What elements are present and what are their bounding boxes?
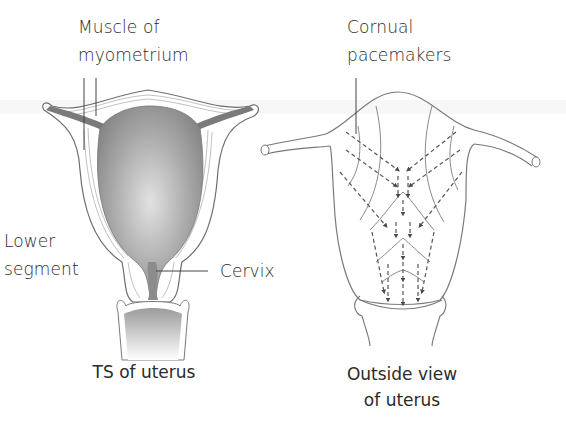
caption-outside-line2: of uterus	[330, 386, 474, 414]
caption-outside-line1: Outside view	[330, 360, 474, 388]
label-pacemaker-line1: Cornual	[347, 12, 413, 42]
ts-uterus-drawing	[43, 78, 259, 360]
label-cervix: Cervix	[220, 256, 275, 286]
label-lower-line1: Lower	[4, 226, 55, 256]
label-muscle-line2: myometrium	[78, 40, 189, 70]
label-muscle-line1: Muscle of	[78, 12, 160, 42]
caption-ts-uterus: TS of uterus	[82, 358, 206, 386]
label-pacemaker-line2: pacemakers	[347, 40, 452, 70]
outside-uterus-drawing	[261, 78, 540, 346]
label-lower-line2: segment	[4, 254, 79, 284]
